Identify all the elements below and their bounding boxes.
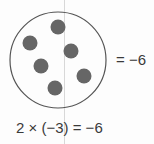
diagram-canvas: = −6 2 × (−3) = −6 <box>0 0 154 144</box>
negative-counters-group <box>23 20 92 96</box>
negative-counter <box>64 44 79 59</box>
negative-counter <box>77 69 92 84</box>
negative-counter <box>34 59 49 74</box>
negative-counter <box>51 20 66 35</box>
negative-counter <box>48 81 63 96</box>
negative-counter <box>23 36 38 51</box>
set-value-label: = −6 <box>116 52 146 67</box>
equation-label: 2 × (−3) = −6 <box>16 120 103 135</box>
